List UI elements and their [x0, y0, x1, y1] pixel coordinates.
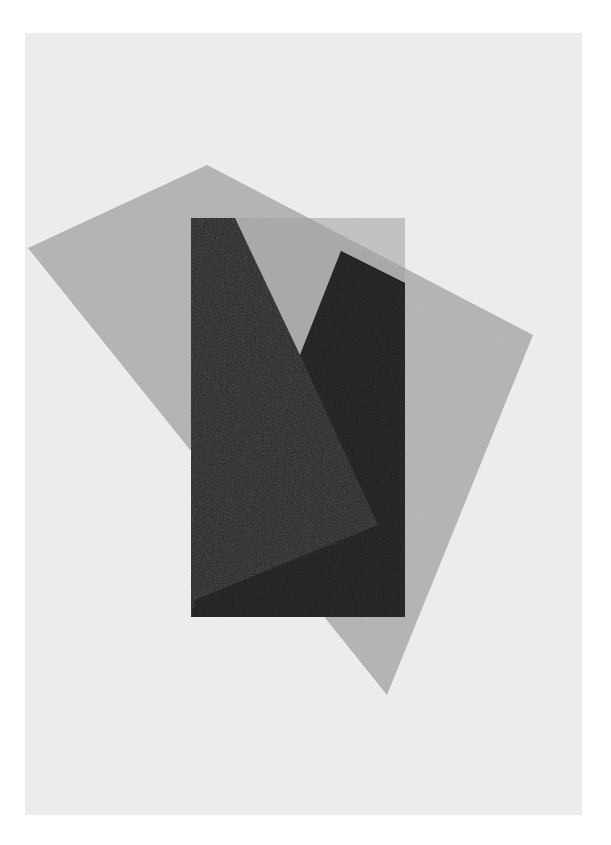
artwork-canvas — [0, 0, 611, 845]
